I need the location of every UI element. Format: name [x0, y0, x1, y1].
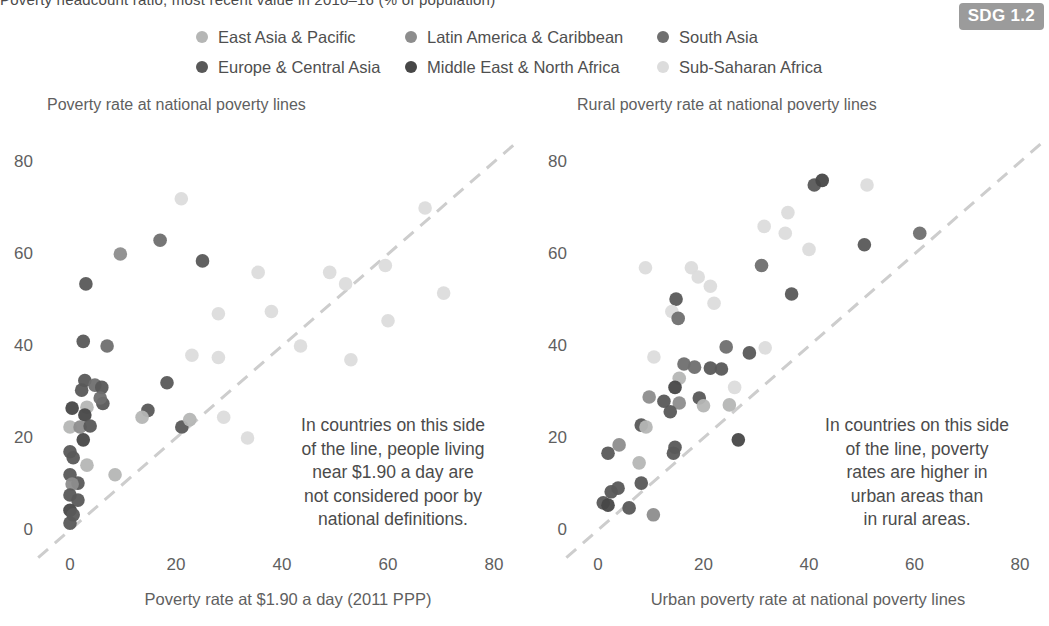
scatter-point	[217, 411, 231, 425]
scatter-point	[212, 351, 226, 365]
scatter-point	[601, 446, 615, 460]
scatter-point	[265, 305, 279, 319]
x-tick-label: 20	[682, 555, 726, 575]
y-tick-label: 80	[0, 152, 33, 172]
x-tick-label: 80	[472, 555, 516, 575]
x-tick-label: 40	[260, 555, 304, 575]
scatter-point	[642, 390, 656, 404]
scatter-point	[323, 266, 337, 280]
scatter-point	[612, 438, 626, 452]
scatter-point	[114, 247, 128, 261]
scatter-point	[858, 238, 872, 252]
scatter-point	[815, 174, 829, 188]
scatter-point	[622, 501, 636, 515]
x-tick-label: 60	[893, 555, 937, 575]
x-tick-label: 60	[366, 555, 410, 575]
scatter-point	[663, 405, 677, 419]
scatter-point	[153, 233, 167, 247]
right-annotation: In countries on this side of the line, p…	[792, 414, 1042, 532]
y-tick-label: 60	[523, 244, 567, 264]
scatter-point	[108, 468, 122, 482]
scatter-point	[80, 458, 94, 472]
scatter-point	[732, 433, 746, 447]
scatter-point	[668, 381, 682, 395]
scatter-point	[634, 476, 648, 490]
scatter-point	[339, 277, 353, 291]
y-tick-label: 0	[0, 520, 33, 540]
y-tick-label: 0	[523, 520, 567, 540]
x-tick-label: 20	[154, 555, 198, 575]
scatter-point	[65, 401, 79, 415]
annotation-line: in rural areas.	[792, 508, 1042, 532]
left-annotation: In countries on this side of the line, p…	[268, 414, 518, 532]
scatter-point	[719, 340, 733, 354]
scatter-point	[93, 391, 107, 405]
scatter-point	[135, 411, 149, 425]
scatter-point	[639, 420, 653, 434]
scatter-point	[611, 481, 625, 495]
scatter-point	[79, 277, 93, 291]
scatter-point	[241, 431, 255, 445]
scatter-point	[381, 314, 395, 328]
scatter-point	[691, 270, 705, 284]
scatter-point	[860, 178, 874, 192]
y-tick-label: 20	[0, 428, 33, 448]
scatter-point	[76, 335, 90, 349]
scatter-point	[83, 419, 97, 433]
scatter-point	[707, 296, 721, 310]
scatter-point	[723, 398, 737, 412]
y-tick-label: 40	[0, 336, 33, 356]
x-tick-label: 0	[48, 555, 92, 575]
annotation-line: not considered poor by	[268, 485, 518, 509]
scatter-point	[294, 339, 308, 353]
scatter-point	[379, 259, 393, 273]
scatter-point	[802, 243, 816, 257]
right-x-axis-label: Urban poverty rate at national poverty l…	[598, 590, 1018, 609]
y-tick-label: 20	[523, 428, 567, 448]
scatter-point	[785, 287, 799, 301]
annotation-line: urban areas than	[792, 485, 1042, 509]
scatter-point	[671, 312, 685, 326]
scatter-point	[757, 220, 771, 234]
scatter-point	[715, 362, 729, 376]
scatter-point	[418, 201, 432, 215]
annotation-line: of the line, poverty	[792, 438, 1042, 462]
y-tick-label: 60	[0, 244, 33, 264]
scatter-point	[668, 440, 682, 454]
scatter-point	[100, 339, 114, 353]
scatter-point	[75, 383, 89, 397]
scatter-point	[212, 307, 226, 321]
scatter-point	[728, 381, 742, 395]
y-tick-label: 80	[523, 152, 567, 172]
scatter-point	[344, 353, 358, 367]
scatter-point	[697, 399, 711, 413]
left-x-axis-label: Poverty rate at $1.90 a day (2011 PPP)	[78, 590, 498, 609]
scatter-point	[669, 292, 683, 306]
scatter-point	[647, 508, 661, 522]
figure-canvas: Poverty headcount ratio, most recent val…	[0, 0, 1049, 626]
x-tick-label: 80	[998, 555, 1042, 575]
annotation-line: near $1.90 a day are	[268, 461, 518, 485]
scatter-point	[183, 413, 197, 427]
scatter-point	[688, 360, 702, 374]
scatter-point	[778, 227, 792, 241]
scatter-point	[437, 286, 451, 300]
scatter-point	[185, 348, 199, 362]
scatter-point	[755, 259, 769, 273]
scatter-point	[913, 227, 927, 241]
scatter-point	[175, 192, 189, 206]
scatter-point	[601, 498, 615, 512]
y-tick-label: 40	[523, 336, 567, 356]
annotation-line: rates are higher in	[792, 461, 1042, 485]
scatter-point	[704, 279, 718, 293]
x-tick-label: 0	[576, 555, 620, 575]
scatter-point	[639, 261, 653, 275]
scatter-point	[76, 433, 90, 447]
scatter-point	[160, 376, 174, 390]
scatter-point	[781, 206, 795, 220]
annotation-line: In countries on this side	[792, 414, 1042, 438]
scatter-point	[632, 456, 646, 470]
scatter-point	[647, 350, 661, 364]
annotation-line: In countries on this side	[268, 414, 518, 438]
scatter-point	[66, 451, 80, 465]
